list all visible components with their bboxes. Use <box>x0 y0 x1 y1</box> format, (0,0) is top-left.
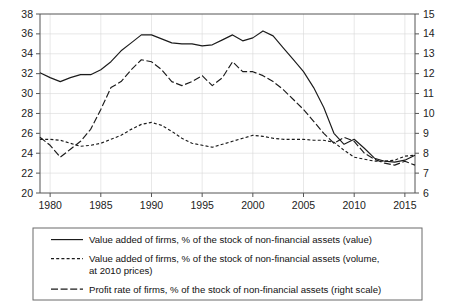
chart-container: 2022242628303234363867891011121314151980… <box>0 0 449 307</box>
x-axis-tick-label: 1990 <box>140 199 164 211</box>
y-axis-left-tick-label: 30 <box>21 87 33 99</box>
y-axis-right-tick-label: 7 <box>423 167 429 179</box>
y-axis-left-tick-label: 26 <box>21 127 33 139</box>
x-axis-tick-label: 1995 <box>190 199 214 211</box>
y-axis-right-tick-label: 6 <box>423 187 429 199</box>
y-axis-right-tick-label: 13 <box>423 47 435 59</box>
x-axis-tick-label: 1980 <box>38 199 62 211</box>
y-axis-left-tick-label: 24 <box>21 147 33 159</box>
y-axis-left-tick-label: 28 <box>21 107 33 119</box>
legend-item-label-1: at 2010 prices) <box>89 265 152 276</box>
y-axis-right-tick-label: 11 <box>423 87 434 99</box>
y-axis-left-tick-label: 32 <box>21 67 33 79</box>
y-axis-right-tick-label: 12 <box>423 67 435 79</box>
y-axis-right-tick-label: 9 <box>423 127 429 139</box>
economic-indicators-line-chart: 2022242628303234363867891011121314151980… <box>0 0 449 307</box>
y-axis-right-tick-label: 10 <box>423 107 435 119</box>
x-axis-tick-label: 2010 <box>343 199 367 211</box>
legend-item-label-2: Profit rate of firms, % of the stock of … <box>89 284 381 295</box>
x-axis-tick-label: 2015 <box>393 199 417 211</box>
y-axis-left-tick-label: 34 <box>21 47 33 59</box>
y-axis-right-tick-label: 8 <box>423 147 429 159</box>
y-axis-right-tick-label: 14 <box>423 27 435 39</box>
x-axis-tick-label: 2005 <box>292 199 316 211</box>
y-axis-left-tick-label: 20 <box>21 187 33 199</box>
legend-item-label-0: Value added of firms, % of the stock of … <box>89 234 372 245</box>
legend-item-label-1: Value added of firms, % of the stock of … <box>89 253 379 264</box>
x-axis-tick-label: 2000 <box>241 199 265 211</box>
y-axis-left-tick-label: 38 <box>21 8 33 20</box>
y-axis-left-tick-label: 36 <box>21 27 33 39</box>
y-axis-right-tick-label: 15 <box>423 8 435 20</box>
y-axis-left-tick-label: 22 <box>21 167 33 179</box>
x-axis-tick-label: 1985 <box>89 199 113 211</box>
